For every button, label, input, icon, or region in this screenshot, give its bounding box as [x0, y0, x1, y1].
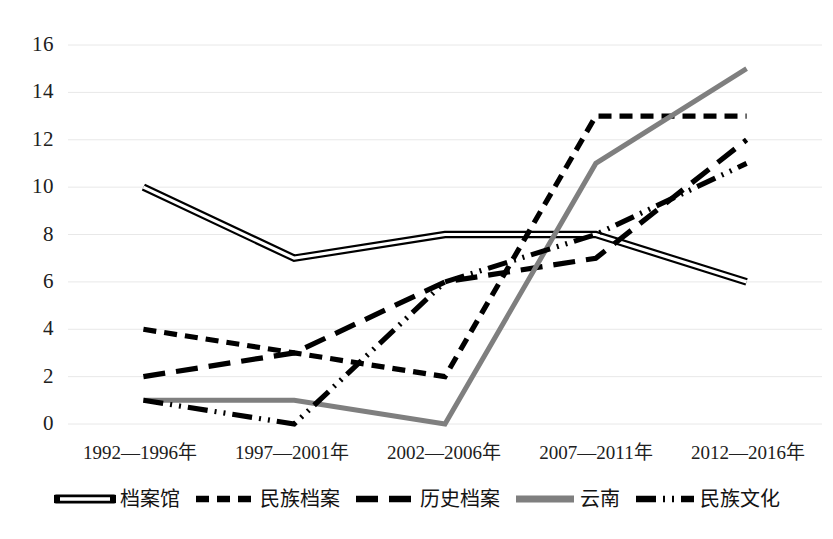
y-tick-label: 8	[8, 224, 54, 245]
legend-label-2: 历史档案	[420, 489, 500, 509]
legend-label-1: 民族档案	[260, 489, 340, 509]
series-line-3	[143, 69, 746, 424]
short-dash-swatch	[194, 489, 256, 509]
line-chart-figure: 1614121086420 1992—1996年1997—2001年2002—2…	[0, 0, 833, 539]
legend-item-0[interactable]: 档案馆	[54, 489, 180, 509]
legend-label-0: 档案馆	[120, 489, 180, 509]
legend-label-4: 民族文化	[700, 489, 780, 509]
x-tick-label-1: 1997—2001年	[216, 440, 368, 468]
series-group	[143, 69, 746, 424]
series-line-1	[143, 116, 746, 377]
x-tick-label-3: 2007—2011年	[520, 440, 672, 468]
y-tick-label: 10	[8, 176, 54, 197]
legend-item-1[interactable]: 民族档案	[194, 489, 340, 509]
y-tick-label: 14	[8, 81, 54, 102]
y-tick-label: 4	[8, 318, 54, 339]
legend-item-3[interactable]: 云南	[514, 489, 620, 509]
legend-item-2[interactable]: 历史档案	[354, 489, 500, 509]
double-solid-swatch	[54, 489, 116, 509]
x-tick-label-0: 1992—1996年	[64, 440, 216, 468]
dash-dot-dot-swatch	[634, 489, 696, 509]
x-tick-label-2: 2002—2006年	[368, 440, 520, 468]
legend-label-3: 云南	[580, 489, 620, 509]
long-dash-swatch	[354, 489, 416, 509]
y-tick-label: 16	[8, 34, 54, 55]
legend-item-4[interactable]: 民族文化	[634, 489, 780, 509]
x-axis-tick-labels: 1992—1996年1997—2001年2002—2006年2007—2011年…	[64, 440, 824, 468]
thick-solid-swatch	[514, 489, 576, 509]
y-tick-label: 0	[8, 413, 54, 434]
chart-page: 1614121086420 1992—1996年1997—2001年2002—2…	[0, 0, 833, 539]
chart-legend: 档案馆民族档案历史档案云南民族文化	[0, 479, 833, 519]
y-tick-label: 12	[8, 129, 54, 150]
y-tick-label: 6	[8, 271, 54, 292]
y-tick-label: 2	[8, 366, 54, 387]
x-tick-label-4: 2012—2016年	[672, 440, 824, 468]
series-line-4	[143, 163, 746, 424]
